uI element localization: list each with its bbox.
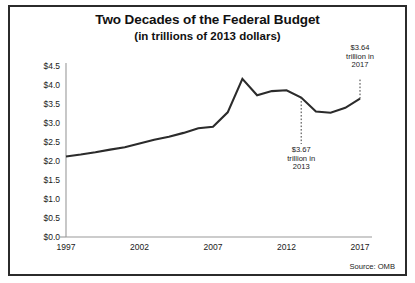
annotation-2017-line3: 2017 bbox=[327, 61, 393, 70]
y-tick-label: $4.0 bbox=[26, 81, 60, 90]
plot-area: $0.0$0.5$1.0$1.5$2.0$2.5$3.0$3.5$4.0$4.5… bbox=[0, 0, 415, 283]
y-tick-label: $0.5 bbox=[26, 214, 60, 223]
y-tick-label: $4.5 bbox=[26, 62, 60, 71]
data-series-line bbox=[66, 79, 360, 157]
y-tick-label: $0.0 bbox=[26, 233, 60, 242]
y-tick-label: $3.0 bbox=[26, 119, 60, 128]
chart-figure: Two Decades of the Federal Budget (in tr… bbox=[0, 0, 415, 283]
annotation-2013: $3.67 trillion in 2013 bbox=[268, 146, 334, 172]
y-tick-label: $1.5 bbox=[26, 176, 60, 185]
y-tick-label: $2.0 bbox=[26, 157, 60, 166]
x-tick-label: 2017 bbox=[340, 243, 380, 252]
x-tick-label: 1997 bbox=[46, 243, 86, 252]
source-note: Source: OMB bbox=[349, 262, 395, 271]
y-tick-label: $3.5 bbox=[26, 100, 60, 109]
y-tick-label: $2.5 bbox=[26, 138, 60, 147]
annotation-2013-line3: 2013 bbox=[268, 163, 334, 172]
annotation-2017: $3.64 trillion in 2017 bbox=[327, 44, 393, 70]
x-tick-label: 2002 bbox=[120, 243, 160, 252]
x-tick-label: 2012 bbox=[267, 243, 307, 252]
y-tick-label: $1.0 bbox=[26, 195, 60, 204]
x-tick-label: 2007 bbox=[193, 243, 233, 252]
